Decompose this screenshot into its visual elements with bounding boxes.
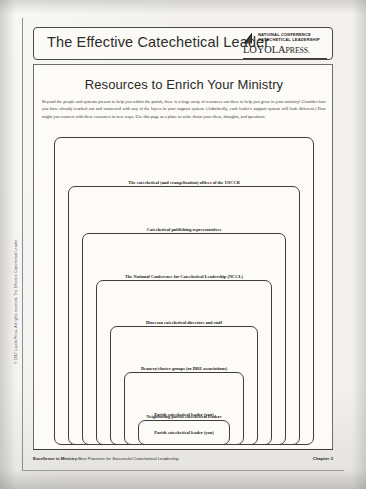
page-sheet: The Effective Catechetical Leader NATION… <box>0 0 366 489</box>
wordmark-press: PRESS. <box>286 46 310 55</box>
layer-label-8: Parish catechetical leader (you) <box>34 430 334 435</box>
trim-rule <box>22 18 23 470</box>
footer-baseline-rule <box>22 470 344 471</box>
wordmark-loyola: LOYOLA <box>243 44 286 55</box>
scan-shadow-right <box>352 0 366 489</box>
layer-label-1: The catechetical (and evangelization) of… <box>34 180 334 185</box>
logo-line-2: CATECHETICAL LEADERSHIP <box>258 38 320 42</box>
publisher-logo: NATIONAL CONFERENCE CATECHETICAL LEADERS… <box>243 31 327 58</box>
intro-paragraph: Beyond the people and systems present to… <box>42 98 326 120</box>
content-frame: Resources to Enrich Your Ministry Beyond… <box>33 64 333 449</box>
layer-label-3: The National Conference for Catechetical… <box>34 274 334 279</box>
layer-label-7: Parish catechetical leader (you) <box>34 412 334 417</box>
page-title: The Effective Catechetical Leader <box>47 34 269 50</box>
footer-book-reference: Excellence in Ministry:Best Practices fo… <box>33 456 178 461</box>
layer-label-4: Diocesan catechetical directors and staf… <box>34 320 334 325</box>
header-band: The Effective Catechetical Leader NATION… <box>33 27 333 60</box>
layer-label-2: Catechetical publishing representatives <box>34 227 334 232</box>
section-heading: Resources to Enrich Your Ministry <box>34 77 334 92</box>
loyola-press-wordmark: LOYOLAPRESS. <box>243 45 327 56</box>
nccl-triangle-mark <box>243 32 256 44</box>
footer-chapter: Chapter 3 <box>313 456 333 461</box>
footer-book-subtitle: Best Practices for Successful Catechetic… <box>78 456 178 461</box>
support-system-diagram: The catechetical (and evangelization) of… <box>34 135 334 447</box>
footer-book-title: Excellence in Ministry: <box>33 456 78 461</box>
logo-underline <box>243 58 327 59</box>
scan-shadow-top <box>0 0 366 14</box>
layer-label-5: Deanery/cluster groups (or DRE associati… <box>34 366 334 371</box>
footer-rule <box>33 449 333 450</box>
scan-shadow-bottom <box>0 469 366 489</box>
margin-copyright-credit: © 2017 Loyola Press. All rights reserved… <box>14 232 18 372</box>
footer: Excellence in Ministry:Best Practices fo… <box>33 452 333 464</box>
